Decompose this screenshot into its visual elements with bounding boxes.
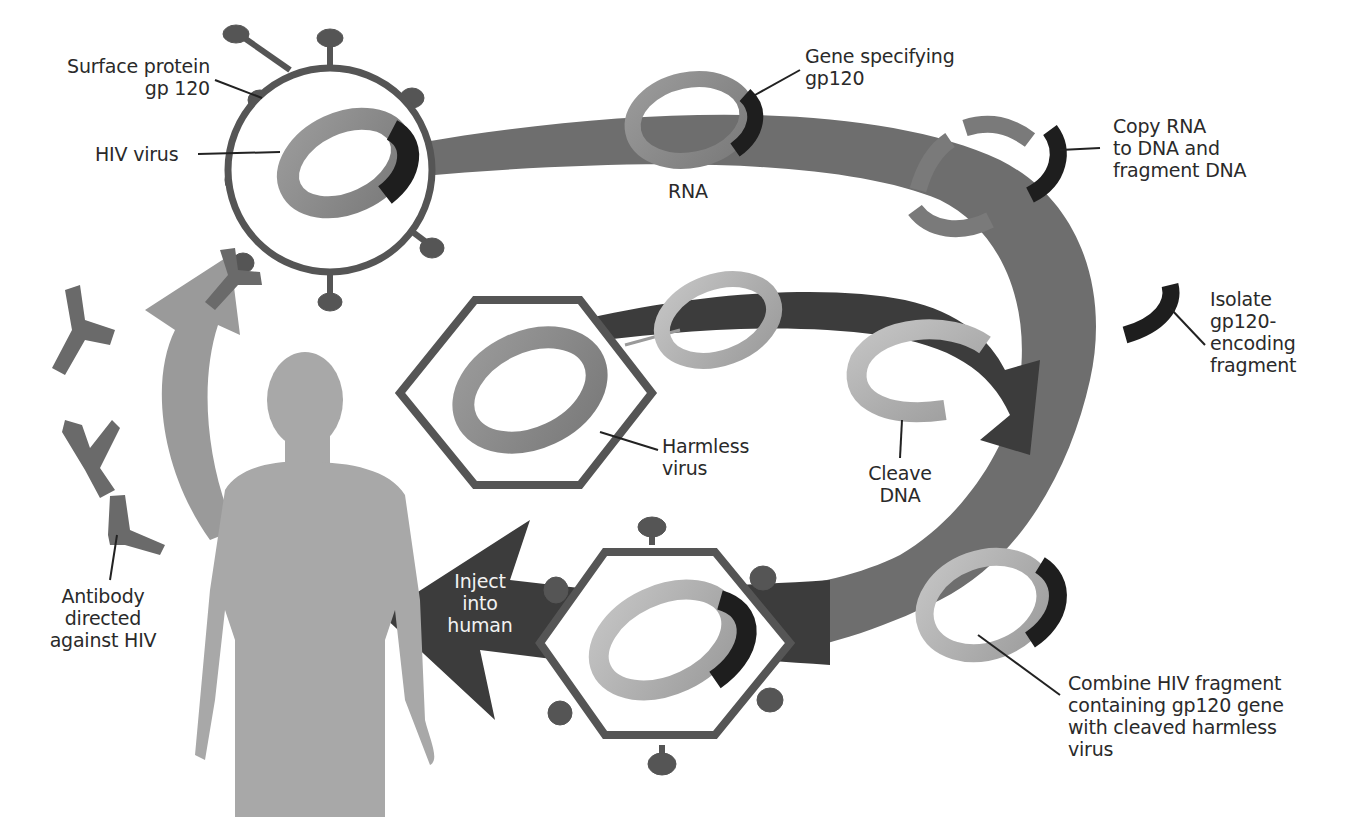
- hiv-vaccine-diagram: Surface protein gp 120 HIV virus Gene sp…: [0, 0, 1362, 817]
- label-surface-protein: Surface protein gp 120: [20, 55, 210, 99]
- label-rna: RNA: [668, 180, 708, 202]
- label-combine: Combine HIV fragment containing gp120 ge…: [1068, 672, 1284, 760]
- recombinant-virus: [540, 517, 790, 775]
- label-isolate: Isolate gp120- encoding fragment: [1210, 288, 1296, 376]
- label-copy-rna: Copy RNA to DNA and fragment DNA: [1113, 115, 1246, 181]
- label-harmless-virus: Harmless virus: [662, 435, 749, 479]
- hiv-virus: [223, 25, 444, 311]
- label-cleave-dna: Cleave DNA: [855, 462, 945, 506]
- human-silhouette: [195, 352, 434, 817]
- label-inject: Inject into human: [430, 570, 530, 636]
- label-gene-specifying: Gene specifying gp120: [805, 45, 955, 89]
- label-hiv-virus: HIV virus: [95, 143, 178, 165]
- label-antibody: Antibody directed against HIV: [28, 585, 178, 651]
